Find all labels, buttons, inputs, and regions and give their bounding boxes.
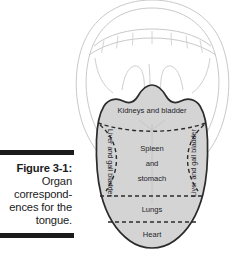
caption-rule-bottom <box>0 233 74 238</box>
zone-label-spleen-line3: stomach <box>138 174 167 183</box>
figure-container: Figure 3-1: Organ correspond-ences for t… <box>0 0 235 258</box>
figure-caption-block: Figure 3-1: Organ correspond-ences for t… <box>0 150 74 238</box>
caption-text: Figure 3-1: Organ correspond-ences for t… <box>0 162 74 227</box>
zone-label-spleen-line1: Spleen <box>140 144 164 153</box>
zone-label-lungs: Lungs <box>142 205 163 214</box>
caption-description: Organ correspond-ences for the tongue. <box>0 175 72 227</box>
left-tonsil-arch <box>95 58 113 93</box>
caption-rule-top <box>0 150 74 155</box>
zone-label-spleen-line2: and <box>146 159 159 168</box>
teeth-row-baseline <box>89 38 216 55</box>
right-tonsil-arch <box>192 58 210 93</box>
zone-label-heart: Heart <box>143 230 162 239</box>
zone-label-kidneys-bladder: Kidneys and bladder <box>117 106 187 115</box>
caption-figure-number: Figure 3-1: <box>0 162 72 175</box>
zone-label-liver-gallbladder-right: Liver and gall bladder <box>190 128 198 196</box>
tongue-diagram: Kidneys and bladder Spleen and stomach L… <box>70 0 235 258</box>
zone-label-liver-gallbladder-left: Liver and gall bladder <box>106 129 114 197</box>
tooth-divider-3 <box>133 33 134 46</box>
tooth-divider-5 <box>171 33 172 46</box>
